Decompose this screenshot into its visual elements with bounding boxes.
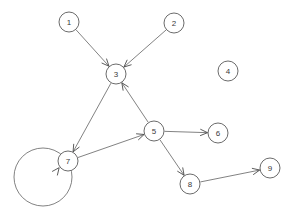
- node-2[interactable]: 2: [164, 13, 184, 33]
- nodes-layer: 123456789: [58, 12, 280, 194]
- node-9[interactable]: 9: [260, 158, 280, 178]
- node-5[interactable]: 5: [144, 121, 164, 141]
- node-7-label: 7: [66, 157, 71, 166]
- arrowhead: [52, 168, 59, 176]
- edges-layer: [14, 30, 260, 206]
- graph-diagram: 123456789: [0, 0, 296, 220]
- node-1-label: 1: [67, 18, 72, 27]
- node-5-label: 5: [152, 127, 157, 136]
- edge-5-to-3: [122, 83, 148, 123]
- edge-5-to-8: [160, 140, 184, 176]
- node-9-label: 9: [268, 164, 273, 173]
- edge-1-to-3: [76, 30, 109, 66]
- node-7[interactable]: 7: [58, 151, 78, 171]
- edge-8-to-9: [200, 170, 259, 182]
- node-6-label: 6: [216, 129, 221, 138]
- node-6[interactable]: 6: [208, 123, 228, 143]
- edge-7-to-5: [78, 134, 144, 157]
- edge-2-to-3: [124, 30, 166, 67]
- node-3-label: 3: [114, 70, 119, 79]
- node-2-label: 2: [172, 19, 177, 28]
- arrowhead: [73, 144, 79, 152]
- node-3[interactable]: 3: [106, 64, 126, 84]
- node-1[interactable]: 1: [59, 12, 79, 32]
- node-4[interactable]: 4: [218, 61, 238, 81]
- edge-5-to-6: [164, 131, 207, 132]
- edge-3-to-7: [73, 83, 111, 152]
- node-8-label: 8: [188, 180, 193, 189]
- node-4-label: 4: [226, 67, 231, 76]
- node-8[interactable]: 8: [180, 174, 200, 194]
